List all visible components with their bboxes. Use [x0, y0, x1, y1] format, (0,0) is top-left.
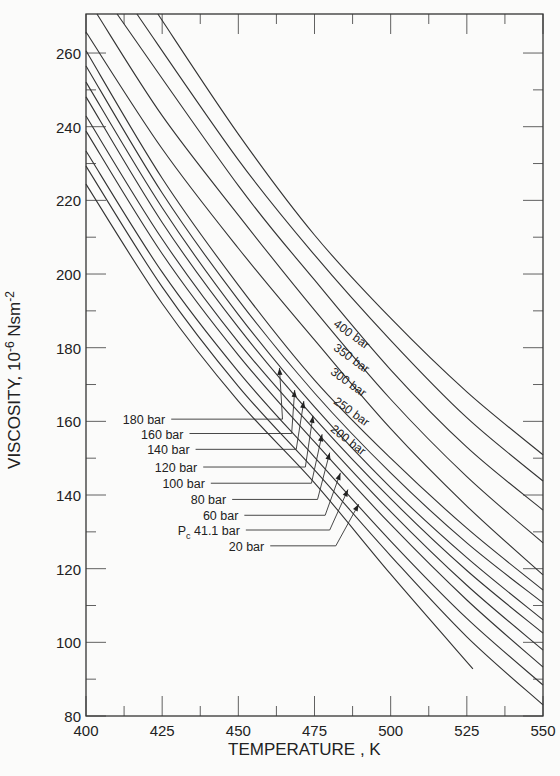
isobar-curve: [86, 51, 543, 590]
curve-label: Pc 41.1 bar: [178, 524, 240, 541]
x-tick-label: 450: [226, 722, 251, 739]
y-tick-label: 240: [56, 119, 81, 136]
curve-label: 180 bar: [123, 413, 165, 427]
x-tick-label: 500: [378, 722, 403, 739]
curve-label: 100 bar: [162, 477, 204, 491]
y-tick-label: 220: [56, 192, 81, 209]
viscosity-chart: 4004254504755005255508010012014016018020…: [0, 0, 560, 776]
arrowhead-icon: [336, 473, 341, 480]
curve-label: 160 bar: [141, 428, 183, 442]
leader-line: [211, 434, 322, 483]
isobar-curve: [86, 66, 543, 603]
y-axis-label: VISCOSITY, 10-6 Nsm-2: [3, 291, 26, 469]
y-tick-label: 80: [64, 708, 81, 725]
x-tick-label: 550: [530, 722, 555, 739]
y-tick-label: 260: [56, 45, 81, 62]
leader-line: [270, 504, 358, 546]
isobar-curve: [86, 97, 543, 633]
plot-frame: [86, 14, 543, 716]
leader-line: [189, 390, 294, 433]
curve-label: 80 bar: [191, 493, 226, 507]
isobar-curves: [86, 14, 543, 705]
curve-label: 20 bar: [229, 540, 264, 554]
x-tick-label: 425: [150, 722, 175, 739]
axis-ticks: 4004254504755005255508010012014016018020…: [56, 14, 556, 739]
y-tick-label: 180: [56, 340, 81, 357]
arrowhead-icon: [325, 453, 330, 460]
x-tick-label: 525: [454, 722, 479, 739]
isobar-curve: [86, 32, 543, 575]
curve-label: 120 bar: [155, 461, 197, 475]
leader-line: [196, 401, 304, 449]
y-tick-label: 200: [56, 266, 81, 283]
plot-border: [86, 14, 543, 716]
y-tick-label: 100: [56, 634, 81, 651]
x-tick-label: 475: [302, 722, 327, 739]
leader-line: [244, 473, 340, 515]
curve-label: 60 bar: [203, 509, 238, 523]
isobar-curve: [86, 82, 543, 620]
y-tick-label: 120: [56, 561, 81, 578]
arrowhead-icon: [353, 504, 359, 511]
leader-line: [232, 453, 330, 500]
arrowhead-icon: [343, 489, 348, 496]
curve-annotations: 400 bar350 bar300 bar250 bar200 bar180 b…: [123, 317, 372, 554]
y-tick-label: 160: [56, 413, 81, 430]
curve-label: 140 bar: [147, 443, 189, 457]
y-tick-label: 140: [56, 487, 81, 504]
x-axis-label: TEMPERATURE , K: [228, 740, 381, 760]
